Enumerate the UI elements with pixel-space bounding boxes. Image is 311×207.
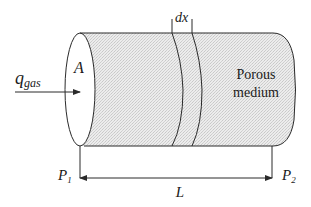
inlet-pressure-label: P1 <box>57 167 72 185</box>
area-label: A <box>73 59 84 76</box>
medium-label-line2: medium <box>233 85 279 100</box>
slice-label: dx <box>175 10 189 25</box>
inlet-face <box>65 33 95 146</box>
porous-medium-diagram: dx A qgas Porous medium L P1 P2 <box>0 0 311 207</box>
flow-rate-label: qgas <box>15 68 41 90</box>
medium-label-line1: Porous <box>237 67 276 82</box>
outlet-pressure-label: P2 <box>281 167 296 185</box>
length-label: L <box>175 184 184 200</box>
